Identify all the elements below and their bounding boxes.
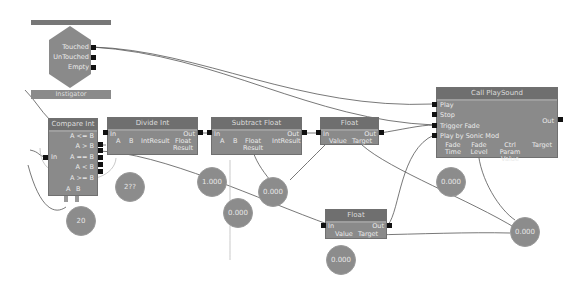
divide-var-b: B	[129, 138, 133, 145]
compare-eq-pin[interactable]	[98, 155, 103, 160]
float-bottom-target-label: Target	[358, 231, 378, 238]
var-divide-b[interactable]: 2??	[115, 172, 145, 202]
stop-pin[interactable]	[432, 112, 437, 117]
compare-out-le: A <= B	[70, 133, 94, 140]
touch-event-node[interactable]: Touched UnTouched Empty	[49, 26, 91, 88]
play-sound-out-pin[interactable]	[558, 117, 563, 122]
var-sub-result[interactable]: 0.000	[258, 177, 288, 207]
float-top-value-label: Value	[329, 138, 347, 145]
float-bottom-value-label: Value	[335, 231, 353, 238]
compare-lt-pin[interactable]	[98, 162, 103, 167]
compare-le-pin[interactable]	[98, 142, 103, 147]
compare-out-gt: A > B	[76, 143, 94, 150]
play-by-mod-label: Play by Sonic Mod	[440, 133, 499, 140]
var-fade-time[interactable]: 0.000	[436, 167, 466, 197]
output-empty-label: Empty	[68, 64, 89, 71]
compare-ge-pin[interactable]	[98, 169, 103, 174]
compare-out-ge: A >= B	[70, 175, 94, 182]
divide-int-node[interactable]: Divide Int In Out A B IntResult Float Re…	[107, 117, 198, 155]
play-pin[interactable]	[432, 102, 437, 107]
float-top-out-pin[interactable]	[379, 130, 384, 135]
divide-var-floatresult: Float Result	[173, 138, 193, 152]
subtract-var-a: A	[220, 138, 224, 145]
play-sound-node[interactable]: Call PlaySound Play Stop Trigger Fade Pl…	[436, 87, 558, 158]
fade-level-label: Fade Level	[470, 142, 488, 156]
float-top-node[interactable]: Float In Out Value Target	[320, 117, 379, 145]
divide-var-intresult: IntResult	[141, 138, 170, 145]
compare-a-pin[interactable]	[64, 196, 68, 202]
event-title-bar[interactable]: Event Touch Collision	[31, 20, 111, 25]
trigger-fade-label: Trigger Fade	[440, 123, 480, 130]
subtract-out-pin[interactable]	[302, 130, 307, 135]
stop-label: Stop	[440, 112, 455, 119]
output-untouched-label: UnTouched	[53, 54, 89, 61]
play-sound-title: Call PlaySound	[437, 88, 557, 101]
float-bottom-in-pin[interactable]	[321, 223, 326, 228]
float-bottom-in-label: In	[328, 223, 334, 230]
compare-var-a: A	[66, 186, 70, 193]
divide-out-pin[interactable]	[198, 130, 203, 135]
subtract-float-node[interactable]: Subtract Float In Out A B Float Result I…	[211, 117, 302, 155]
compare-int-title: Compare Int	[49, 119, 97, 132]
subtract-var-b: B	[233, 138, 237, 145]
divide-var-a: A	[116, 138, 120, 145]
var-float-bottom-value[interactable]: 0.000	[326, 245, 356, 275]
var-sub-mid[interactable]: 0.000	[223, 198, 253, 228]
subtract-var-intresult: IntResult	[272, 138, 301, 145]
compare-out-eq: A == B	[70, 154, 94, 161]
compare-out-lt: A < B	[76, 164, 94, 171]
touched-pin[interactable]	[91, 45, 96, 50]
compare-int-node[interactable]: Compare Int In A <= B A > B A == B A < B…	[48, 118, 98, 196]
subtract-in-pin[interactable]	[207, 130, 212, 135]
divide-in-pin[interactable]	[103, 130, 108, 135]
trigger-fade-pin[interactable]	[432, 123, 437, 128]
compare-gt-pin[interactable]	[98, 148, 103, 153]
var-compare-b[interactable]: 20	[66, 206, 96, 236]
play-label: Play	[440, 102, 454, 109]
play-sound-out-label: Out	[542, 118, 554, 125]
float-bottom-node[interactable]: Float In Out Value Target	[325, 209, 387, 239]
float-bottom-out-label: Out	[372, 223, 384, 230]
subtract-var-floatresult: Float Result	[242, 138, 264, 152]
empty-pin[interactable]	[91, 65, 96, 70]
compare-in-label: In	[51, 154, 57, 161]
var-shared-float[interactable]: 0.000	[510, 217, 540, 247]
float-bottom-out-pin[interactable]	[387, 223, 392, 228]
output-touched-label: Touched	[62, 44, 89, 51]
ctrl-param-label: Ctrl Param Value	[495, 142, 525, 163]
instigator-bar[interactable]: Instigator	[31, 90, 111, 99]
target-label: Target	[532, 142, 552, 149]
untouched-pin[interactable]	[91, 55, 96, 60]
play-by-mod-pin[interactable]	[432, 133, 437, 138]
fade-time-label: Fade Time	[445, 142, 461, 156]
var-sub-a[interactable]: 1.000	[197, 167, 227, 197]
float-top-in-pin[interactable]	[316, 130, 321, 135]
compare-var-b: B	[76, 186, 80, 193]
compare-in-pin[interactable]	[43, 155, 48, 160]
float-top-target-label: Target	[352, 138, 372, 145]
compare-b-pin[interactable]	[75, 196, 79, 202]
